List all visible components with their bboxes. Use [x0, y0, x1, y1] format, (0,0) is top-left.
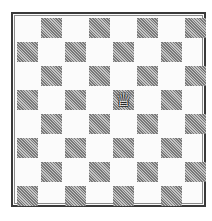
square-b5[interactable] [40, 89, 64, 113]
square-a5[interactable] [16, 89, 40, 113]
square-b1[interactable] [40, 185, 64, 209]
square-d2[interactable] [88, 161, 112, 185]
white-queen-icon[interactable]: ♕ [113, 90, 134, 110]
square-d5[interactable] [88, 89, 112, 113]
square-e5[interactable]: ♕ [112, 89, 136, 113]
square-c6[interactable] [64, 65, 88, 89]
square-h4[interactable] [184, 113, 208, 137]
square-b3[interactable] [40, 137, 64, 161]
square-g6[interactable] [160, 65, 184, 89]
square-h8[interactable] [184, 17, 208, 41]
square-b4[interactable] [40, 113, 64, 137]
square-c5[interactable] [64, 89, 88, 113]
square-b8[interactable] [40, 17, 64, 41]
square-b6[interactable] [40, 65, 64, 89]
square-h2[interactable] [184, 161, 208, 185]
square-d3[interactable] [88, 137, 112, 161]
square-g1[interactable] [160, 185, 184, 209]
square-e4[interactable] [112, 113, 136, 137]
square-a4[interactable] [16, 113, 40, 137]
square-e6[interactable] [112, 65, 136, 89]
square-c7[interactable] [64, 41, 88, 65]
square-f5[interactable] [136, 89, 160, 113]
square-f6[interactable] [136, 65, 160, 89]
square-b2[interactable] [40, 161, 64, 185]
square-b7[interactable] [40, 41, 64, 65]
square-f3[interactable] [136, 137, 160, 161]
square-g8[interactable] [160, 17, 184, 41]
square-h6[interactable] [184, 65, 208, 89]
square-h3[interactable] [184, 137, 208, 161]
square-f4[interactable] [136, 113, 160, 137]
square-a2[interactable] [16, 161, 40, 185]
square-e2[interactable] [112, 161, 136, 185]
square-h1[interactable] [184, 185, 208, 209]
square-f7[interactable] [136, 41, 160, 65]
square-a1[interactable] [16, 185, 40, 209]
square-e3[interactable] [112, 137, 136, 161]
square-c2[interactable] [64, 161, 88, 185]
square-e7[interactable] [112, 41, 136, 65]
square-f8[interactable] [136, 17, 160, 41]
square-g4[interactable] [160, 113, 184, 137]
square-c8[interactable] [64, 17, 88, 41]
square-h7[interactable] [184, 41, 208, 65]
square-e1[interactable] [112, 185, 136, 209]
square-g7[interactable] [160, 41, 184, 65]
square-a8[interactable] [16, 17, 40, 41]
square-d1[interactable] [88, 185, 112, 209]
square-d7[interactable] [88, 41, 112, 65]
square-a6[interactable] [16, 65, 40, 89]
square-h5[interactable] [184, 89, 208, 113]
board-grid: ♕ [16, 17, 208, 209]
square-c4[interactable] [64, 113, 88, 137]
square-d4[interactable] [88, 113, 112, 137]
square-a3[interactable] [16, 137, 40, 161]
square-c3[interactable] [64, 137, 88, 161]
square-f1[interactable] [136, 185, 160, 209]
square-e8[interactable] [112, 17, 136, 41]
square-g3[interactable] [160, 137, 184, 161]
square-a7[interactable] [16, 41, 40, 65]
square-d8[interactable] [88, 17, 112, 41]
square-c1[interactable] [64, 185, 88, 209]
chessboard: ♕ [11, 12, 206, 207]
square-f2[interactable] [136, 161, 160, 185]
square-d6[interactable] [88, 65, 112, 89]
square-g5[interactable] [160, 89, 184, 113]
square-g2[interactable] [160, 161, 184, 185]
